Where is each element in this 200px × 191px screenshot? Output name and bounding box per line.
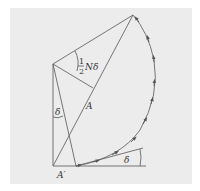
label-delta-right: δ xyxy=(124,155,129,165)
resultant-a-line xyxy=(53,15,133,166)
angle-arc-delta-right xyxy=(140,149,141,166)
arrow-icon xyxy=(136,18,139,22)
phasor-arc xyxy=(76,15,155,166)
radius-top xyxy=(53,15,133,64)
label-a: A xyxy=(85,101,93,111)
label-n-delta: Nδ xyxy=(84,62,98,72)
label-half-numerator: 1 xyxy=(79,57,84,66)
angle-arc-half-n-delta xyxy=(75,51,78,71)
label-a-prime: A′ xyxy=(56,170,66,180)
arrow-icon xyxy=(143,119,146,124)
arrow-icon xyxy=(154,57,155,62)
arc-arrows xyxy=(76,18,155,166)
phasor-diagram: 1 2 Nδ δ A δ A′ xyxy=(0,0,200,191)
label-delta-left: δ xyxy=(55,107,60,117)
label-half-denominator: 2 xyxy=(79,67,84,76)
arrow-icon xyxy=(154,81,155,86)
tangent-line xyxy=(76,148,143,166)
